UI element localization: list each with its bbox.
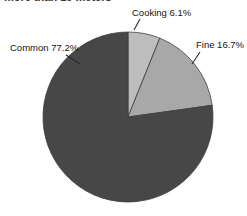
pie-chart-svg: Cooking 6.1%Fine 16.7%Common 77.2% [0,0,247,216]
pie-label-fine: Fine 16.7% [196,39,245,50]
leader-line-cooking [134,19,140,30]
pie-label-common: Common 77.2% [10,42,79,53]
pie-label-cooking: Cooking 6.1% [132,7,192,18]
leader-line-fine [192,52,200,64]
pie-chart-figure: more than 10 meters Cooking 6.1%Fine 16.… [0,0,247,216]
pie-slices-group [43,32,213,202]
